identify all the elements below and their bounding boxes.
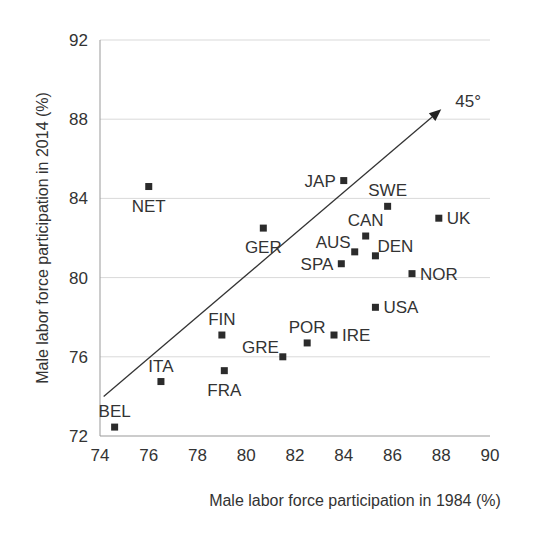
point-label-net: NET xyxy=(132,197,166,216)
point-marker-usa xyxy=(372,304,379,311)
data-points: NETJAPSWEUKGERCANAUSDENSPANORUSAFINIREPO… xyxy=(99,172,472,431)
point-marker-aus xyxy=(351,248,358,255)
x-tick-label: 86 xyxy=(383,446,402,465)
arrow-annotation-label: 45° xyxy=(455,92,481,111)
45-degree-arrow: 45° xyxy=(104,92,481,396)
point-marker-nor xyxy=(409,270,416,277)
scatter-chart: 727680848892 747678808284868890 45° NETJ… xyxy=(0,0,545,539)
point-marker-bel xyxy=(111,424,118,431)
point-marker-por xyxy=(304,339,311,346)
point-marker-can xyxy=(362,233,369,240)
point-label-den: DEN xyxy=(377,237,413,256)
point-marker-fin xyxy=(218,332,225,339)
point-label-ger: GER xyxy=(245,238,282,257)
point-marker-swe xyxy=(384,203,391,210)
point-label-aus: AUS xyxy=(316,233,351,252)
y-tick-label: 72 xyxy=(69,427,88,446)
y-tick-label: 80 xyxy=(69,269,88,288)
point-marker-spa xyxy=(338,260,345,267)
point-marker-jap xyxy=(340,177,347,184)
y-tick-label: 84 xyxy=(69,189,88,208)
point-marker-uk xyxy=(435,215,442,222)
point-label-uk: UK xyxy=(447,209,471,228)
point-marker-fra xyxy=(221,367,228,374)
point-label-ire: IRE xyxy=(342,326,370,345)
x-tick-label: 90 xyxy=(481,446,500,465)
point-label-fin: FIN xyxy=(208,310,235,329)
y-tick-label: 88 xyxy=(69,110,88,129)
point-marker-ger xyxy=(260,225,267,232)
point-label-ita: ITA xyxy=(148,357,174,376)
axes xyxy=(100,40,490,436)
point-label-nor: NOR xyxy=(420,265,458,284)
x-axis-label: Male labor force participation in 1984 (… xyxy=(209,492,501,509)
point-label-spa: SPA xyxy=(301,255,334,274)
y-tick-labels: 727680848892 xyxy=(69,31,88,446)
point-marker-net xyxy=(145,183,152,190)
y-tick-label: 92 xyxy=(69,31,88,50)
x-tick-label: 82 xyxy=(286,446,305,465)
x-tick-label: 84 xyxy=(334,446,353,465)
point-label-swe: SWE xyxy=(368,181,407,200)
x-tick-label: 88 xyxy=(432,446,451,465)
y-tick-label: 76 xyxy=(69,348,88,367)
y-axis-label: Male labor force participation in 2014 (… xyxy=(34,92,51,384)
point-label-bel: BEL xyxy=(99,402,131,421)
x-tick-label: 78 xyxy=(188,446,207,465)
x-tick-label: 80 xyxy=(237,446,256,465)
point-marker-gre xyxy=(279,353,286,360)
point-marker-ita xyxy=(157,378,164,385)
x-tick-labels: 747678808284868890 xyxy=(91,446,500,465)
x-tick-label: 76 xyxy=(139,446,158,465)
x-tick-label: 74 xyxy=(91,446,110,465)
point-label-usa: USA xyxy=(383,298,419,317)
point-label-jap: JAP xyxy=(305,172,336,191)
point-label-gre: GRE xyxy=(242,338,279,357)
point-label-fra: FRA xyxy=(207,381,242,400)
point-label-can: CAN xyxy=(348,211,384,230)
point-label-por: POR xyxy=(289,318,326,337)
point-marker-ire xyxy=(331,332,338,339)
